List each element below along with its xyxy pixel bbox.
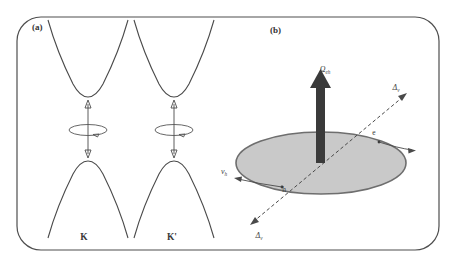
delta-axis-arrowhead-upper [398,93,407,101]
figure-outer-frame [17,17,439,250]
omega-label: Ωeh [320,65,331,75]
polarization-arrowhead-k [93,134,99,137]
valence-band-k [48,161,128,238]
valence-band-kprime [134,161,214,238]
figure-container: (a) K [0,0,457,268]
valley-k-group: K [48,20,128,242]
panel-a: (a) K [32,20,214,242]
hole-label: h [282,185,286,194]
delta-lower-label: Δv [254,231,263,241]
omega-subscript: eh [325,69,330,75]
delta-lower-subscript: v [260,235,263,241]
electron-velocity-arrowhead [408,148,416,154]
panel-a-label: (a) [32,22,43,32]
omega-arrow-shaft [316,85,325,163]
delta-upper-label: Δv [391,83,400,93]
valley-label-kprime: K' [167,232,177,242]
valley-kprime-group: K' [134,20,214,242]
delta-upper-subscript: v [397,87,400,93]
panel-b-label: (b) [270,25,281,35]
electron-label: e [372,128,376,137]
conduction-band-kprime [134,20,214,97]
velocity-subscript: h [224,171,227,177]
valley-label-k: K [80,232,88,242]
hole-velocity-arrowhead [234,177,242,183]
panel-b: (b) Ωeh e h [221,25,416,241]
hole-velocity-label: vh [221,167,228,177]
polarization-arrowhead-kprime [179,134,185,137]
figure-svg: (a) K [0,0,457,268]
conduction-band-k [48,20,128,97]
